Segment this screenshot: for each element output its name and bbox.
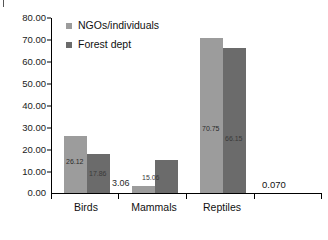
bar-value-birds-ngos: 26.12 xyxy=(66,158,84,165)
bar-reptiles-forest xyxy=(223,48,246,193)
x-tick-mark xyxy=(254,194,255,199)
y-axis-tick-labels: 80.00 70.00 60.00 50.00 40.00 30.00 20.0… xyxy=(0,0,46,240)
bar-value-mammals-forest: 15.06 xyxy=(142,174,160,181)
legend-item-ngos-individuals: NGOs/individuals xyxy=(66,18,159,33)
y-tick-label: 40.00 xyxy=(22,101,46,111)
y-tick-label: 60.00 xyxy=(22,57,46,67)
x-category-label-reptiles: Reptiles xyxy=(203,202,241,213)
y-tick-label: 10.00 xyxy=(22,167,46,177)
y-tick-label: 20.00 xyxy=(22,145,46,155)
y-tick-label: 50.00 xyxy=(22,79,46,89)
legend-swatch-icon xyxy=(66,23,72,29)
bar-mammals-ngos xyxy=(132,186,155,193)
x-tick-mark xyxy=(118,194,119,199)
legend-label: Forest dept xyxy=(78,39,131,50)
x-category-label-birds: Birds xyxy=(74,202,98,213)
bar-value-mammals-ngos: 3.06 xyxy=(112,179,130,188)
annotation-value: 0.070 xyxy=(262,180,286,190)
bar-value-reptiles-ngos: 70.75 xyxy=(202,125,220,132)
y-tick-label: 30.00 xyxy=(22,123,46,133)
legend-label: NGOs/individuals xyxy=(78,20,159,31)
y-tick-label: 80.00 xyxy=(22,13,46,23)
y-tick-label: 70.00 xyxy=(22,35,46,45)
y-axis-line xyxy=(51,18,52,194)
bar-value-birds-forest: 17.86 xyxy=(89,170,107,177)
legend-item-forest-dept: Forest dept xyxy=(66,37,159,52)
x-tick-mark xyxy=(186,194,187,199)
chart-legend: NGOs/individuals Forest dept xyxy=(66,18,159,56)
x-tick-mark xyxy=(51,194,52,199)
legend-swatch-icon xyxy=(66,42,72,48)
x-category-label-mammals: Mammals xyxy=(131,202,177,213)
bar-reptiles-ngos xyxy=(200,38,223,193)
bar-value-reptiles-forest: 66.15 xyxy=(225,135,243,142)
bar-chart: 80.00 70.00 60.00 50.00 40.00 30.00 20.0… xyxy=(0,0,328,240)
y-tick-label: 0.00 xyxy=(28,188,47,198)
x-tick-mark xyxy=(321,194,322,199)
